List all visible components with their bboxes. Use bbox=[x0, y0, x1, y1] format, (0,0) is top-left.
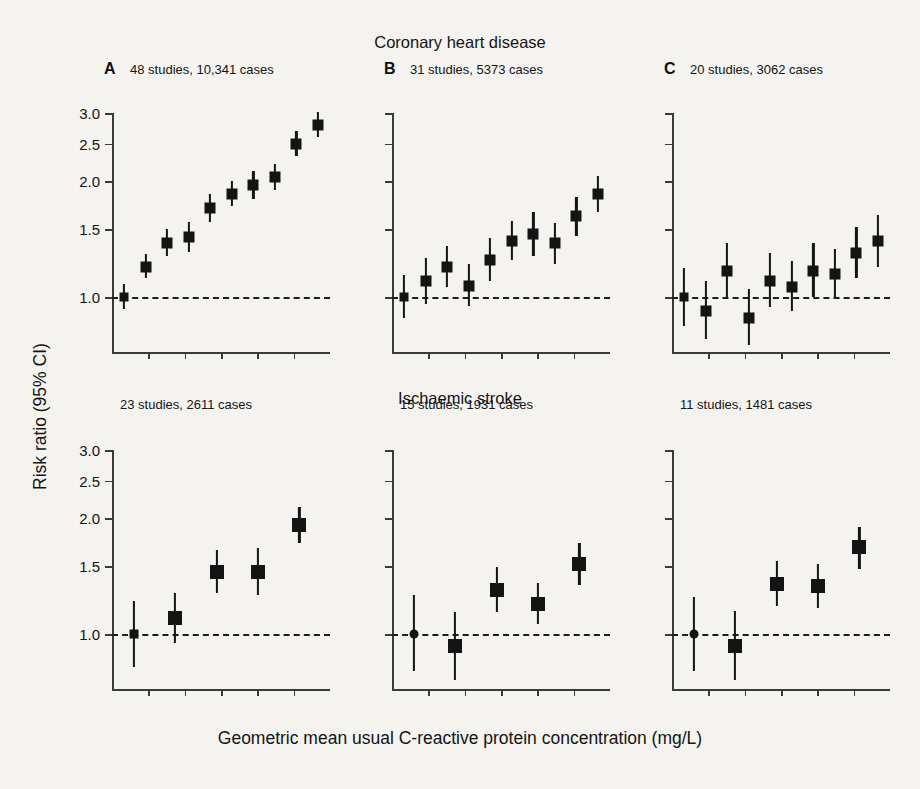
plot-area-f bbox=[672, 437, 890, 689]
data-point-marker bbox=[689, 630, 698, 639]
y-tick bbox=[665, 481, 672, 483]
data-point-marker bbox=[770, 577, 784, 591]
data-point-marker bbox=[852, 540, 866, 554]
x-tick bbox=[745, 689, 747, 696]
y-axis-spine bbox=[672, 450, 674, 689]
reference-line bbox=[672, 634, 890, 636]
y-tick bbox=[665, 566, 672, 568]
panel-caption-f: 11 studies, 1481 cases bbox=[680, 397, 812, 412]
x-tick bbox=[708, 689, 710, 696]
figure-canvas: Risk ratio (95% CI) Coronary heart disea… bbox=[0, 0, 920, 789]
data-point-marker bbox=[728, 639, 742, 653]
y-tick bbox=[665, 634, 672, 636]
x-tick bbox=[817, 689, 819, 696]
data-point-marker bbox=[811, 579, 825, 593]
x-axis-label: Geometric mean usual C-reactive protein … bbox=[0, 728, 920, 749]
x-tick bbox=[781, 689, 783, 696]
x-tick bbox=[854, 689, 856, 696]
y-tick bbox=[665, 450, 672, 452]
y-tick bbox=[665, 518, 672, 520]
panel-f: 11 studies, 1481 cases bbox=[0, 0, 920, 789]
